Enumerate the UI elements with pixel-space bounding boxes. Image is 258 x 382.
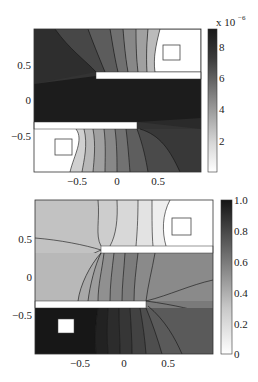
svg-text:0.5: 0.5 (151, 175, 165, 187)
top-y-axis-ticks: 0.5 0 −0.5 (11, 59, 31, 142)
top-lower-wall (34, 122, 137, 129)
svg-text:0.5: 0.5 (18, 233, 32, 245)
svg-text:0.4: 0.4 (234, 287, 248, 299)
svg-text:6: 6 (219, 72, 225, 84)
svg-text:0: 0 (234, 348, 240, 360)
svg-text:0.2: 0.2 (234, 318, 248, 330)
top-x-axis-ticks: −0.5 0 0.5 (67, 175, 165, 187)
svg-text:−0.5: −0.5 (67, 175, 87, 187)
bottom-upper-wall (101, 246, 213, 253)
svg-text:0.5: 0.5 (17, 59, 31, 71)
bottom-colorbar: 1.0 0.8 0.6 0.4 0.2 0 (221, 194, 248, 360)
svg-text:2: 2 (219, 135, 225, 147)
svg-text:−0.5: −0.5 (11, 130, 31, 142)
svg-text:1.0: 1.0 (234, 194, 248, 206)
svg-text:8: 8 (219, 41, 225, 53)
colorbar-multiplier: x 10 (216, 16, 236, 28)
svg-text:0.6: 0.6 (234, 256, 248, 268)
svg-text:0: 0 (27, 271, 33, 283)
bottom-y-axis-ticks: 0.5 0 −0.5 (12, 233, 32, 321)
svg-text:−6: −6 (238, 14, 246, 22)
svg-text:0.8: 0.8 (234, 225, 248, 237)
svg-text:0: 0 (26, 94, 32, 106)
svg-text:0: 0 (114, 175, 120, 187)
bottom-lower-wall (35, 301, 146, 308)
bottom-x-axis-ticks: −0.5 0 0.5 (70, 357, 175, 369)
bottom-square-lower-left (58, 319, 74, 333)
svg-text:−0.5: −0.5 (70, 357, 90, 369)
svg-text:0: 0 (121, 357, 127, 369)
figure: 0.5 0 −0.5 −0.5 0 0.5 8 6 4 2 x 10 −6 (0, 0, 258, 382)
top-upper-wall (96, 72, 201, 79)
top-colorbar: 8 6 4 2 x 10 −6 (208, 14, 246, 172)
svg-text:4: 4 (219, 103, 225, 115)
svg-text:0.5: 0.5 (161, 357, 175, 369)
svg-text:−0.5: −0.5 (12, 309, 32, 321)
top-contour-plot (34, 29, 201, 172)
